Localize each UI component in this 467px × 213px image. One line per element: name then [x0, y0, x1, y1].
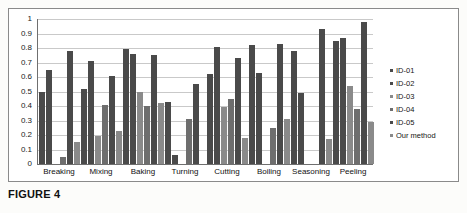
bar-group: [290, 19, 332, 164]
bar: [158, 103, 164, 164]
x-tick-label: Baking: [122, 166, 164, 180]
y-axis-tick-labels: 10.90.80.70.60.50.40.30.20.10: [9, 19, 35, 164]
legend-item[interactable]: ID-03: [390, 91, 460, 102]
legend-swatch-icon: [390, 82, 393, 85]
bar: [256, 73, 262, 164]
bar: [144, 106, 150, 164]
y-tick-label: 1: [28, 15, 32, 23]
y-tick-label: 0.9: [21, 30, 32, 38]
legend-swatch-icon: [390, 95, 393, 98]
y-tick-label: 0.3: [21, 117, 32, 125]
legend-swatch-icon: [390, 121, 393, 124]
bar: [340, 38, 346, 164]
x-tick-label: Cutting: [206, 166, 248, 180]
bar: [326, 139, 332, 164]
x-tick-label: Breaking: [38, 166, 80, 180]
bar: [347, 86, 353, 164]
bar: [368, 122, 374, 164]
bar-groups: [38, 19, 373, 164]
legend-swatch-icon: [390, 69, 393, 72]
x-tick-label: Mixing: [80, 166, 122, 180]
bar: [291, 51, 297, 164]
y-tick-label: 0.1: [21, 146, 32, 154]
bar: [172, 155, 178, 164]
bar-group: [248, 19, 290, 164]
bar: [277, 44, 283, 164]
x-tick-label: Boiling: [248, 166, 290, 180]
bar: [333, 41, 339, 164]
y-tick-label: 0.6: [21, 73, 32, 81]
y-tick-label: 0.4: [21, 102, 32, 110]
legend-label: ID-02: [396, 80, 414, 88]
bar: [151, 55, 157, 164]
bar: [81, 89, 87, 164]
bar: [242, 138, 248, 164]
bar: [109, 76, 115, 164]
bar: [270, 128, 276, 164]
bar: [74, 142, 80, 164]
bar: [186, 119, 192, 164]
bar: [46, 70, 52, 164]
bar: [102, 105, 108, 164]
bar: [60, 157, 66, 164]
bar: [39, 92, 45, 165]
legend-item[interactable]: Our method: [390, 130, 460, 141]
x-tick-label: Peeling: [332, 166, 374, 180]
legend-label: ID-03: [396, 93, 414, 101]
x-axis-tick-labels: BreakingMixingBakingTurningCuttingBoilin…: [38, 166, 374, 180]
bar: [193, 84, 199, 164]
x-tick-label: Turning: [164, 166, 206, 180]
legend-label: ID-04: [396, 106, 414, 114]
bar: [284, 119, 290, 164]
legend-item[interactable]: ID-02: [390, 78, 460, 89]
y-tick-label: 0.5: [21, 88, 32, 96]
bar: [361, 22, 367, 164]
bar: [165, 102, 171, 164]
bar: [354, 109, 360, 164]
bar-group: [332, 19, 374, 164]
x-tick-label: Seasoning: [290, 166, 332, 180]
bar-group: [38, 19, 80, 164]
legend-item[interactable]: ID-05: [390, 117, 460, 128]
bar-group: [122, 19, 164, 164]
y-tick-label: 0.7: [21, 59, 32, 67]
bar: [116, 131, 122, 164]
legend-item[interactable]: ID-04: [390, 104, 460, 115]
y-tick-label: 0.8: [21, 44, 32, 52]
bar: [137, 92, 143, 165]
bar: [319, 29, 325, 164]
bar-group: [164, 19, 206, 164]
bar: [249, 45, 255, 164]
chart-frame: 10.90.80.70.60.50.40.30.20.10 BreakingMi…: [8, 8, 459, 182]
y-tick-label: 0.2: [21, 131, 32, 139]
legend-label: ID-05: [396, 119, 414, 127]
bar: [235, 58, 241, 164]
legend-label: ID-01: [396, 67, 414, 75]
bar: [67, 51, 73, 164]
plot-area: [37, 19, 373, 164]
chart-legend: ID-01ID-02ID-03ID-04ID-05Our method: [390, 65, 460, 143]
figure-caption: FIGURE 4: [8, 188, 60, 200]
figure-container: 10.90.80.70.60.50.40.30.20.10 BreakingMi…: [0, 0, 467, 213]
bar: [88, 61, 94, 164]
bar: [130, 54, 136, 164]
bar: [95, 136, 101, 164]
bar: [298, 93, 304, 164]
bar: [214, 47, 220, 164]
legend-swatch-icon: [390, 108, 393, 111]
bar: [207, 74, 213, 164]
bar: [123, 49, 129, 164]
grid-line: [37, 164, 373, 165]
legend-label: Our method: [396, 132, 436, 140]
bar: [228, 99, 234, 164]
bar-group: [206, 19, 248, 164]
y-tick-label: 0: [28, 160, 32, 168]
legend-item[interactable]: ID-01: [390, 65, 460, 76]
bar-group: [80, 19, 122, 164]
legend-swatch-icon: [390, 134, 393, 137]
bar: [221, 107, 227, 164]
